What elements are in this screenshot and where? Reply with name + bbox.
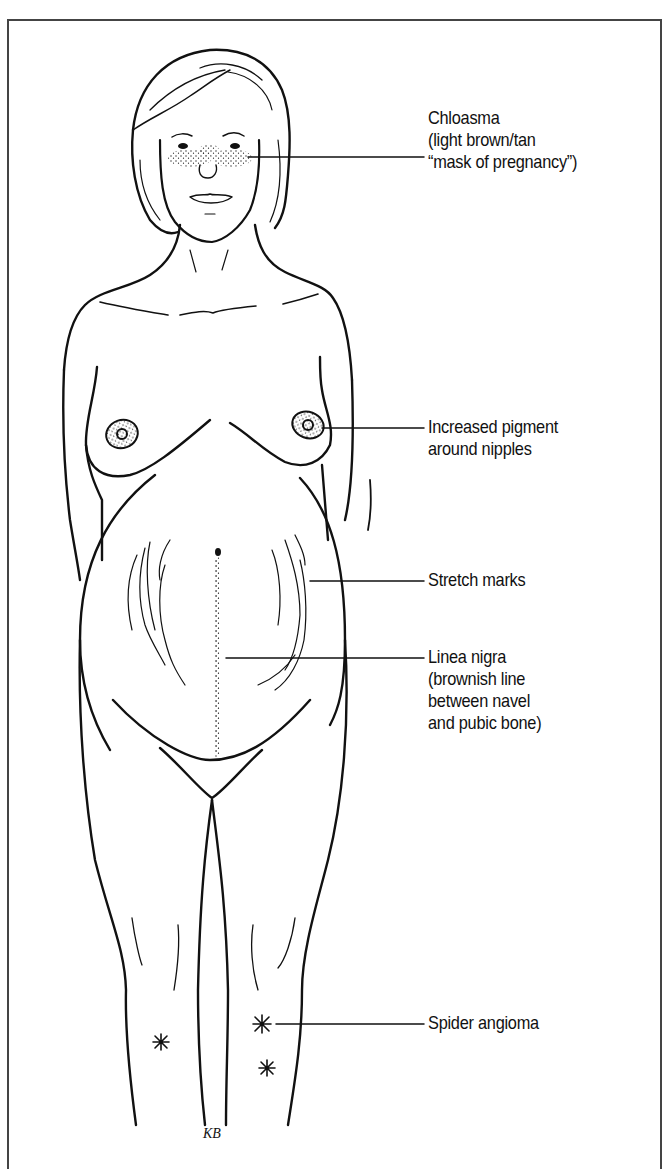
nipples [102, 407, 327, 452]
label-chloasma: Chloasma (light brown/tan “mask of pregn… [428, 107, 577, 173]
label-spider-angioma: Spider angioma [428, 1012, 539, 1034]
hair [132, 50, 289, 233]
knees [132, 918, 295, 990]
belly [80, 475, 345, 798]
artist-initials: KB [202, 1126, 221, 1141]
label-nipple-pigment: Increased pigment around nipples [428, 416, 558, 460]
label-linea-nigra: Linea nigra (brownish line between navel… [428, 646, 541, 734]
neck-shoulders [64, 225, 352, 380]
breasts [86, 357, 331, 560]
label-stretch-marks: Stretch marks [428, 569, 525, 591]
leader-lines [226, 157, 424, 1024]
legs [80, 640, 347, 1125]
spider-angiomas [153, 1015, 275, 1076]
linea-nigra [214, 548, 221, 757]
